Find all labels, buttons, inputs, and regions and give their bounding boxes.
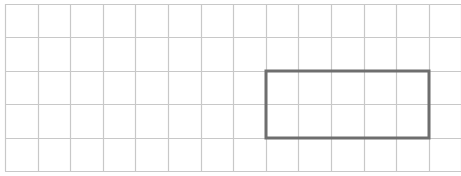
grid-lines	[5, 4, 461, 172]
grid-diagram	[0, 0, 461, 176]
